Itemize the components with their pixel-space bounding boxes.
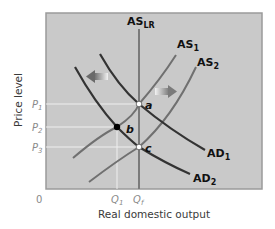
y-axis-title: Price level — [12, 73, 24, 127]
point-a-marker — [136, 101, 142, 107]
y-tick-p2: P2 — [32, 122, 43, 135]
x-tick-q1: Q1 — [111, 194, 123, 207]
point-c-marker — [136, 144, 142, 150]
y-tick-p3: P3 — [32, 142, 43, 155]
point-b-marker — [114, 124, 120, 130]
origin-label: 0 — [36, 194, 42, 205]
x-tick-qf: Qf — [133, 194, 145, 207]
plot-area — [46, 13, 262, 189]
economics-diagram: a b c ASLR AS1 AS2 AD1 AD2 P1 P2 P3 0 Q1… — [0, 0, 275, 229]
point-b-label: b — [126, 123, 134, 136]
point-a-label: a — [145, 99, 152, 112]
point-c-label: c — [145, 142, 152, 155]
x-axis-title: Real domestic output — [98, 208, 210, 220]
y-tick-p1: P1 — [32, 99, 43, 112]
